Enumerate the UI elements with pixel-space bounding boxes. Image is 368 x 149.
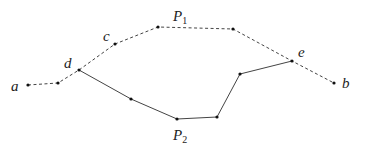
vertex-a	[26, 83, 29, 86]
label-p1-main: P	[172, 8, 182, 24]
vertex-q1	[56, 81, 59, 84]
path-p1-dashed	[28, 27, 334, 85]
vertex-e	[290, 59, 293, 62]
label-e: e	[298, 44, 305, 60]
label-c: c	[103, 28, 110, 44]
label-p1: P1	[172, 8, 187, 26]
vertex-c	[113, 42, 116, 45]
label-p2: P2	[172, 127, 187, 145]
path-diagram: a b c d e P1 P2	[0, 0, 368, 149]
label-p2-main: P	[172, 127, 182, 143]
vertex-b	[332, 81, 335, 84]
label-p2-sub: 2	[182, 134, 187, 145]
vertex-s1	[129, 97, 132, 100]
vertex-s4	[238, 72, 241, 75]
path-p2-solid	[79, 61, 292, 119]
label-b: b	[342, 75, 350, 91]
vertex-t1	[156, 25, 159, 28]
vertex-s2	[175, 117, 178, 120]
vertices	[26, 25, 335, 120]
vertex-d	[77, 68, 80, 71]
label-p1-sub: 1	[182, 15, 187, 26]
vertex-t2	[231, 27, 234, 30]
vertex-s3	[215, 115, 218, 118]
label-d: d	[64, 55, 72, 71]
label-a: a	[11, 78, 19, 94]
